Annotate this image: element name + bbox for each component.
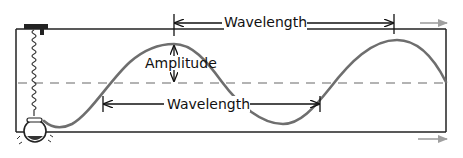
wavelength-label-bottom: Wavelength xyxy=(167,96,250,112)
spring xyxy=(32,30,36,116)
wavelength-label-top: Wavelength xyxy=(224,14,307,30)
weight xyxy=(17,118,53,144)
amplitude-label: Amplitude xyxy=(145,55,217,71)
wave-diagram: Wavelength Wavelength Amplitude xyxy=(0,0,463,158)
